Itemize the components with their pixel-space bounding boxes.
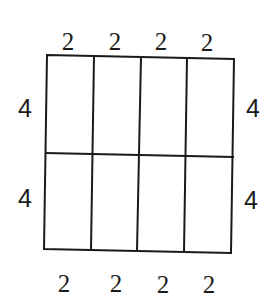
left-label-bottom: 4 [18, 184, 32, 212]
bottom-label-1: 2 [58, 270, 71, 297]
bottom-label-2: 2 [110, 270, 123, 297]
top-label-3: 2 [155, 28, 168, 55]
rectangle-diagram: 2 2 2 2 2 2 2 2 4 4 4 4 [0, 0, 280, 303]
left-label-top: 4 [18, 94, 32, 122]
bottom-label-3: 2 [157, 271, 170, 298]
right-label-top: 4 [246, 94, 260, 122]
top-label-2: 2 [109, 28, 122, 55]
bottom-label-4: 2 [203, 271, 216, 298]
top-label-1: 2 [62, 28, 75, 55]
right-label-bottom: 4 [244, 186, 258, 214]
top-label-4: 2 [201, 29, 214, 56]
